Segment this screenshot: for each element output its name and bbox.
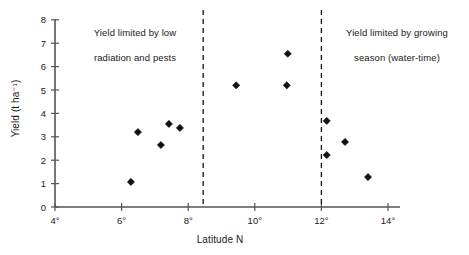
y-tick-label: 1	[41, 178, 46, 189]
annotation-right-line2: season (water-time)	[354, 52, 440, 63]
y-tick-label: 2	[41, 155, 46, 166]
data-points	[127, 50, 371, 185]
data-point-marker	[165, 120, 172, 127]
chart-figure: 4°6°8°10°12°14° 012345678 Yield limited …	[0, 0, 469, 255]
y-axis-title: Yield (t ha⁻¹)	[10, 54, 21, 164]
data-point-marker	[364, 173, 371, 180]
y-tick-label: 3	[41, 131, 46, 142]
annotation-left-region: Yield limited by low radiation and pests	[72, 14, 198, 64]
y-ticks: 012345678	[41, 14, 59, 212]
data-point-marker	[157, 141, 164, 148]
y-tick-label: 6	[41, 61, 46, 72]
y-tick-label: 4	[41, 108, 46, 119]
y-tick-label: 5	[41, 85, 46, 96]
data-point-marker	[284, 50, 291, 57]
annotation-right-line1: Yield limited by growing	[346, 27, 448, 38]
x-tick-label: 14°	[381, 215, 396, 226]
data-point-marker	[127, 178, 134, 185]
x-tick-label: 6°	[117, 215, 126, 226]
y-tick-label: 7	[41, 38, 46, 49]
data-point-marker	[176, 124, 183, 131]
data-point-marker	[283, 82, 290, 89]
x-axis-title: Latitude N	[0, 234, 440, 245]
y-tick-label: 0	[41, 202, 46, 213]
y-tick-label: 8	[41, 14, 46, 25]
vline-group	[203, 10, 321, 207]
data-point-marker	[323, 117, 330, 124]
annotation-right-region: Yield limited by growing season (water-t…	[327, 14, 467, 64]
x-tick-label: 8°	[184, 215, 193, 226]
annotation-left-line2: radiation and pests	[94, 52, 176, 63]
annotation-left-line1: Yield limited by low	[94, 27, 176, 38]
data-point-marker	[341, 138, 348, 145]
data-point-marker	[233, 82, 240, 89]
x-tick-label: 10°	[248, 215, 263, 226]
data-point-marker	[323, 151, 330, 158]
x-tick-label: 12°	[314, 215, 329, 226]
x-tick-label: 4°	[50, 215, 59, 226]
data-point-marker	[134, 129, 141, 136]
